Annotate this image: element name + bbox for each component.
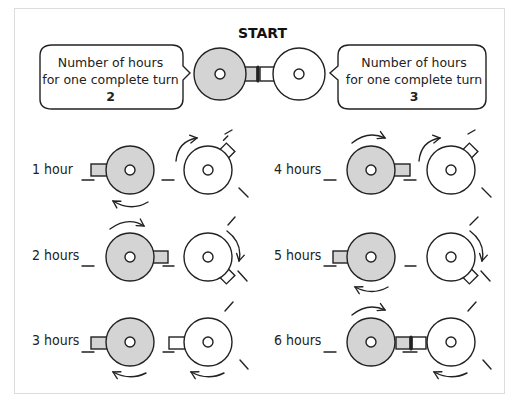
left-speech-bubble: [40, 45, 190, 109]
panel-3h: [82, 302, 248, 377]
panel-2h: [82, 217, 247, 284]
panel-5h: [324, 217, 490, 292]
wheels-diagram: [0, 0, 525, 407]
panel-6h: [324, 302, 491, 377]
panel-1h: [82, 130, 248, 207]
start-wheels: [194, 48, 325, 100]
right-speech-bubble: [330, 45, 486, 109]
panel-4h: [324, 130, 491, 197]
